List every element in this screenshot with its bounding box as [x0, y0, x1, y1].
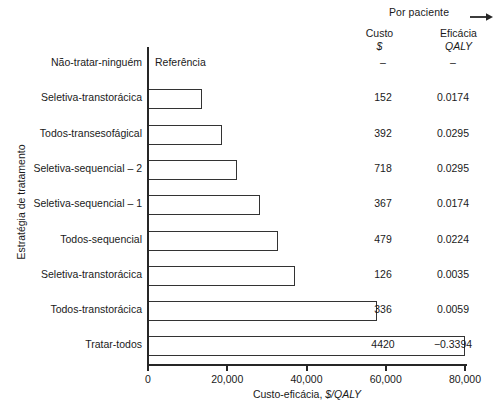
strategy-label: Não-tratar-ninguém: [0, 56, 142, 68]
cost-value: 392: [352, 127, 414, 139]
cost-value: 367: [352, 197, 414, 209]
cost-value: 479: [352, 233, 414, 245]
bar: [148, 160, 237, 180]
cost-value: –: [352, 56, 414, 68]
efficacy-value: 0.0035: [418, 268, 488, 280]
bar: [148, 231, 278, 251]
efficacy-value: 0.0295: [418, 162, 488, 174]
chart-row: Tratar-todos4420−0.3394: [0, 329, 498, 364]
bar: [148, 195, 260, 215]
chart-row: Seletiva-sequencial – 13670.0174: [0, 188, 498, 223]
chart-row: Seletiva-transtorácica1260.0035: [0, 259, 498, 294]
strategy-label: Seletiva-sequencial – 2: [0, 162, 142, 174]
efficacy-value: 0.0295: [418, 127, 488, 139]
cost-value: 336: [352, 303, 414, 315]
x-axis-title-plain: Custo-eficácia,: [253, 388, 325, 400]
chart-row: Todos-sequencial4790.0224: [0, 224, 498, 259]
x-tick-label: 60,000: [370, 373, 402, 385]
efficacy-value: 0.0059: [418, 303, 488, 315]
x-tick-label: 20,000: [211, 373, 243, 385]
strategy-label: Seletiva-sequencial – 1: [0, 197, 142, 209]
efficacy-value: 0.0174: [418, 91, 488, 103]
x-tick-mark: [147, 366, 149, 371]
chart-row: Seletiva-transtorácica1520.0174: [0, 82, 498, 117]
header-efficacy-label: Eficácia: [419, 27, 498, 40]
efficacy-value: 0.0224: [418, 233, 488, 245]
header-cost-label: Custo: [340, 27, 419, 40]
bar: [148, 125, 222, 145]
efficacy-value: 0.0174: [418, 197, 488, 209]
y-axis-line: [147, 47, 149, 365]
chart-row: Todos-transtorácica3360.0059: [0, 294, 498, 329]
x-tick-mark: [385, 366, 387, 371]
chart-row: Não-tratar-ninguémReferência––: [0, 47, 498, 82]
x-axis-title-units: $/QALY: [325, 388, 361, 400]
overflow-arrow-icon: [470, 12, 494, 22]
strategy-label: Todos-sequencial: [0, 233, 142, 245]
strategy-label: Seletiva-transtorácica: [0, 268, 142, 280]
bar: [148, 266, 295, 286]
cost-value: 4420: [352, 338, 414, 350]
strategy-label: Seletiva-transtorácica: [0, 91, 142, 103]
x-tick-mark: [226, 366, 228, 371]
x-tick-label: 80,000: [449, 373, 481, 385]
x-axis-title: Custo-eficácia, $/QALY: [147, 388, 467, 400]
cost-effectiveness-chart: Por paciente Custo $ Eficácia QALY Estra…: [0, 0, 498, 415]
chart-row: Todos-transesofágical3920.0295: [0, 118, 498, 153]
x-tick-label: 0: [145, 373, 151, 385]
bar: [148, 89, 202, 109]
chart-row: Seletiva-sequencial – 27180.0295: [0, 153, 498, 188]
cost-value: 718: [352, 162, 414, 174]
strategy-label: Todos-transesofágical: [0, 127, 142, 139]
strategy-label: Todos-transtorácica: [0, 303, 142, 315]
strategy-label: Tratar-todos: [0, 338, 142, 350]
cost-value: 152: [352, 91, 414, 103]
cost-value: 126: [352, 268, 414, 280]
efficacy-value: −0.3394: [418, 338, 488, 350]
reference-text: Referência: [155, 56, 206, 68]
x-tick-mark: [306, 366, 308, 371]
bar: [148, 301, 377, 321]
x-tick-mark: [464, 366, 466, 371]
x-tick-label: 40,000: [290, 373, 322, 385]
efficacy-value: –: [418, 56, 488, 68]
